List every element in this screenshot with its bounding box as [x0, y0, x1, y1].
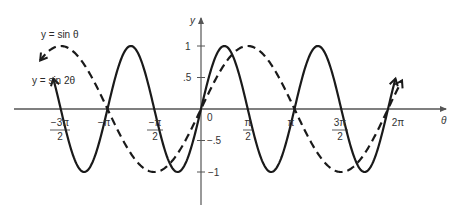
sine-graph: y θ 1 .5 −.5 −1 −3π 2 −π −π 2 0 π 2 π 3π… — [0, 0, 458, 219]
ytick-label--0.5: −.5 — [207, 135, 222, 146]
xtick-label-negpi: −π — [98, 117, 111, 128]
ytick-label--1: −1 — [208, 167, 220, 178]
ytick-label-1: 1 — [185, 41, 191, 52]
xtick-label-neg3pi2-den: 2 — [57, 131, 63, 142]
ytick-label-0.5: .5 — [183, 72, 192, 83]
label-sin-theta: y = sin θ — [41, 29, 79, 40]
x-tick-labels: −3π 2 −π −π 2 0 π 2 π 3π 2 2π — [50, 112, 404, 142]
xtick-label-negpi2-den: 2 — [152, 131, 158, 142]
x-axis-label: θ — [441, 115, 447, 126]
xtick-label-zero: 0 — [207, 112, 213, 123]
axes — [14, 18, 446, 205]
xtick-label-3pi2-den: 2 — [337, 131, 343, 142]
xtick-label-negpi2-num: −π — [149, 117, 162, 128]
xtick-label-pi2-num: π — [245, 117, 252, 128]
xtick-label-pi: π — [288, 117, 295, 128]
label-sin-2theta: y = sin 2θ — [32, 75, 76, 86]
xtick-label-pi2-den: 2 — [245, 131, 251, 142]
xtick-label-neg3pi2-num: −3π — [51, 117, 69, 128]
xtick-label-3pi2-num: 3π — [334, 117, 347, 128]
xtick-label-2pi: 2π — [392, 117, 405, 128]
y-axis-label: y — [189, 15, 196, 26]
